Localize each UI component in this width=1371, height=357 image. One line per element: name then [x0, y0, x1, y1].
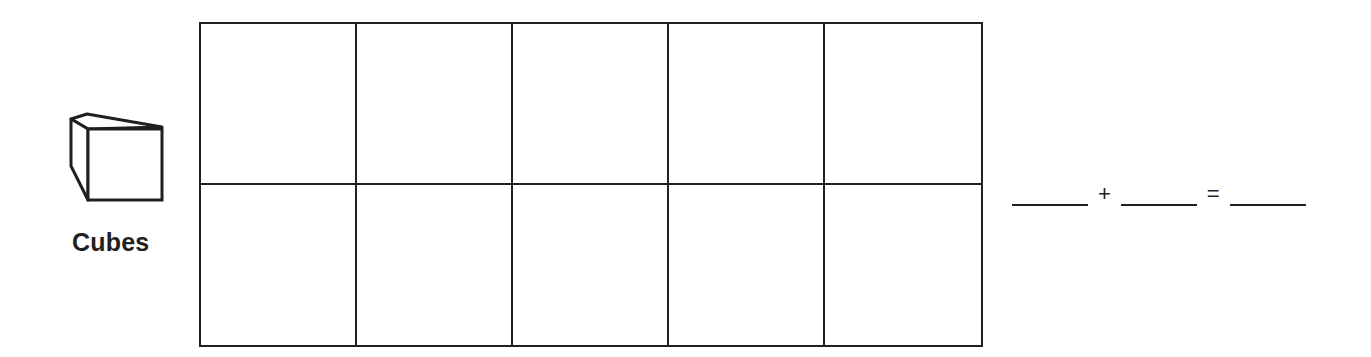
ten-frame-cell[interactable]	[669, 185, 825, 346]
ten-frame-cell[interactable]	[825, 185, 981, 346]
ten-frame-cell[interactable]	[669, 24, 825, 185]
ten-frame-cell[interactable]	[825, 24, 981, 185]
sum-blank[interactable]	[1230, 180, 1306, 206]
ten-frame-cell[interactable]	[357, 24, 513, 185]
equals-sign: =	[1205, 182, 1222, 206]
addend-1-blank[interactable]	[1012, 180, 1088, 206]
addend-2-blank[interactable]	[1121, 180, 1197, 206]
addition-equation: + =	[1012, 180, 1306, 206]
ten-frame-cell[interactable]	[513, 185, 669, 346]
ten-frame-cell[interactable]	[201, 185, 357, 346]
plus-sign: +	[1096, 182, 1113, 206]
cubes-label: Cubes	[72, 228, 149, 257]
ten-frame-cell[interactable]	[357, 185, 513, 346]
cube-icon	[66, 112, 166, 204]
ten-frame-cell[interactable]	[201, 24, 357, 185]
ten-frame-cell[interactable]	[513, 24, 669, 185]
ten-frame	[199, 22, 983, 347]
